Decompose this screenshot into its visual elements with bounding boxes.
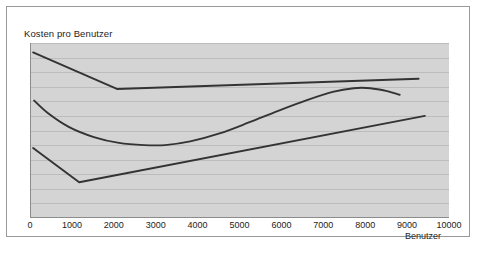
figure-frame: Kosten pro Benutzer 01000200030004000500… xyxy=(6,6,470,237)
series-line-obere-kurve xyxy=(33,52,418,88)
chart-title: Kosten pro Benutzer xyxy=(24,28,113,39)
x-tick-label: 10000 xyxy=(436,220,461,230)
series-line-untere-kurve xyxy=(33,116,425,182)
x-tick-label: 5000 xyxy=(229,220,249,230)
x-tick-label: 1000 xyxy=(62,220,82,230)
x-tick-label: 7000 xyxy=(313,220,333,230)
x-tick-label: 9000 xyxy=(397,220,417,230)
x-tick-label: 2000 xyxy=(104,220,124,230)
chart-figure: Kosten pro Benutzer 01000200030004000500… xyxy=(0,0,483,253)
x-tick-label: 3000 xyxy=(146,220,166,230)
x-tick-label: 4000 xyxy=(188,220,208,230)
series-line-mittlere-kurve xyxy=(34,88,400,146)
x-tick-label: 8000 xyxy=(355,220,375,230)
plot-area xyxy=(30,43,449,218)
x-axis-tick-labels: 0100020003000400050006000700080009000100… xyxy=(30,218,449,234)
x-tick-label: 0 xyxy=(27,220,32,230)
x-axis-title: Benutzer xyxy=(405,231,441,241)
series-layer xyxy=(31,43,449,218)
x-tick-label: 6000 xyxy=(271,220,291,230)
